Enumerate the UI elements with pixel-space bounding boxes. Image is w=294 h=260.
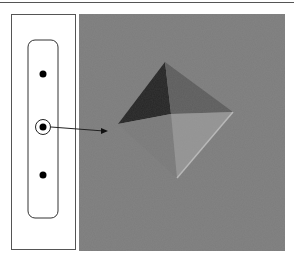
indent-dot-1	[40, 71, 47, 78]
pointer-arrow	[51, 127, 104, 131]
indent-dot-3	[40, 172, 47, 179]
arrow-head-icon	[101, 128, 108, 134]
specimen-diagram	[0, 0, 294, 260]
indent-dot-2	[40, 124, 47, 131]
